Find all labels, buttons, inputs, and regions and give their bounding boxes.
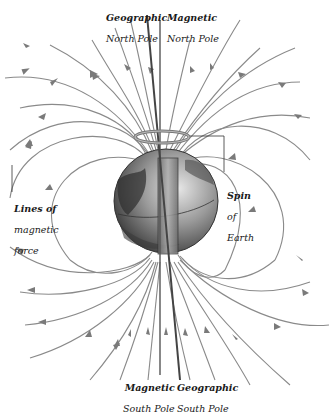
label-magnetic-south: Magnetic South Pole: [123, 372, 175, 414]
label-spin-of-earth: Spin of Earth: [227, 180, 254, 243]
label-text: North Pole: [167, 33, 219, 44]
label-text: Magnetic: [167, 12, 217, 23]
label-text: Earth: [227, 232, 254, 243]
label-geographic-north: Geographic North Pole: [106, 2, 167, 44]
label-text: Magnetic: [125, 382, 175, 393]
label-text: of: [227, 211, 236, 222]
label-text: Geographic: [106, 12, 167, 23]
label-text: magnetic: [14, 224, 59, 235]
label-magnetic-north: Magnetic North Pole: [167, 2, 219, 44]
label-text: South Pole: [177, 403, 229, 414]
label-geographic-south: Geographic South Pole: [177, 372, 238, 414]
label-text: force: [14, 245, 39, 256]
label-lines-of-force: Lines of magnetic force: [14, 193, 59, 256]
spin-ring: [135, 131, 189, 143]
label-text: South Pole: [123, 403, 175, 414]
label-text: Lines of: [14, 203, 56, 214]
label-text: Geographic: [177, 382, 238, 393]
label-text: North Pole: [106, 33, 158, 44]
label-text: Spin: [227, 190, 251, 201]
